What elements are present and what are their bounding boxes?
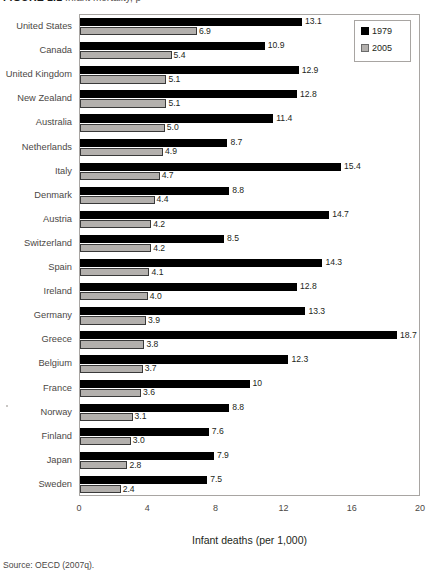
category-label: United States	[0, 14, 72, 38]
category-label: Greece	[0, 327, 72, 351]
bar-value-1979: 18.7	[400, 331, 417, 340]
bar-row: Australia11.45.0	[0, 110, 435, 134]
bar-value-1979: 8.8	[232, 403, 244, 412]
bar-value-1979: 7.9	[217, 451, 229, 460]
bar-group: 14.74.2	[80, 207, 419, 231]
bar-row: France103.6	[0, 376, 435, 400]
bar-2005	[80, 220, 151, 228]
bar-value-2005: 2.4	[123, 485, 135, 494]
bar-value-1979: 8.5	[227, 234, 239, 243]
bar-2005	[80, 51, 172, 59]
bar-value-2005: 4.1	[151, 268, 163, 277]
bar-2005	[80, 292, 148, 300]
x-axis-title: Infant deaths (per 1,000)	[79, 534, 420, 546]
bar-value-1979: 12.3	[291, 355, 308, 364]
bar-value-1979: 12.8	[300, 282, 317, 291]
bar-value-2005: 4.4	[157, 195, 169, 204]
gray-square-icon	[361, 44, 369, 52]
category-label: Ireland	[0, 279, 72, 303]
bar-value-1979: 12.8	[300, 90, 317, 99]
category-label: Denmark	[0, 183, 72, 207]
bar-group: 7.92.8	[80, 448, 419, 472]
category-label: Japan	[0, 448, 72, 472]
figure-title: FIGURE 1.1 Infant mortality, p	[3, 0, 303, 3]
bar-value-1979: 7.6	[212, 427, 224, 436]
bar-2005	[80, 437, 131, 445]
bar-row: Denmark8.84.4	[0, 183, 435, 207]
bar-value-2005: 3.1	[135, 412, 147, 421]
bar-rows: United States13.16.9Canada10.95.4United …	[0, 14, 435, 496]
bar-1979	[80, 355, 288, 363]
bar-group: 11.45.0	[80, 110, 419, 134]
bar-row: Finland7.63.0	[0, 424, 435, 448]
bar-group: 8.74.9	[80, 135, 419, 159]
bar-value-2005: 3.0	[133, 436, 145, 445]
category-label: United Kingdom	[0, 62, 72, 86]
bar-value-2005: 3.9	[148, 316, 160, 325]
bar-1979	[80, 18, 302, 26]
category-label: Norway	[0, 400, 72, 424]
legend-label-1979: 1979	[372, 27, 392, 36]
bar-group: 7.63.0	[80, 424, 419, 448]
bar-2005	[80, 461, 127, 469]
bar-value-2005: 4.2	[153, 220, 165, 229]
bar-value-1979: 10	[253, 379, 263, 388]
bar-group: 8.84.4	[80, 183, 419, 207]
bar-group: 13.33.9	[80, 303, 419, 327]
bar-row: Germany13.33.9	[0, 303, 435, 327]
bar-2005	[80, 172, 160, 180]
bar-value-2005: 4.0	[150, 292, 162, 301]
bar-group: 15.44.7	[80, 159, 419, 183]
bar-1979	[80, 452, 214, 460]
bar-1979	[80, 283, 297, 291]
bar-2005	[80, 99, 166, 107]
bar-group: 8.54.2	[80, 231, 419, 255]
x-tick-label: 8	[213, 503, 218, 513]
bar-value-2005: 5.4	[174, 51, 186, 60]
category-label: New Zealand	[0, 86, 72, 110]
category-label: Germany	[0, 303, 72, 327]
bar-1979	[80, 66, 299, 74]
bar-2005	[80, 485, 121, 493]
bar-row: Sweden7.52.4	[0, 472, 435, 496]
bar-2005	[80, 389, 141, 397]
bar-value-1979: 13.1	[305, 17, 322, 26]
bar-2005	[80, 124, 165, 132]
bar-2005	[80, 413, 133, 421]
figure-caption: Infant mortality, p	[65, 0, 141, 3]
bar-value-2005: 4.2	[153, 244, 165, 253]
bar-value-2005: 2.8	[129, 461, 141, 470]
bar-value-2005: 4.7	[162, 171, 174, 180]
bar-row: New Zealand12.85.1	[0, 86, 435, 110]
x-tick-label: 4	[145, 503, 150, 513]
bar-1979	[80, 90, 297, 98]
category-label: Belgium	[0, 351, 72, 375]
bar-group: 14.34.1	[80, 255, 419, 279]
bar-value-2005: 3.7	[145, 364, 157, 373]
bar-2005	[80, 316, 146, 324]
source-note: Source: OECD (2007q).	[3, 560, 94, 570]
bar-row: Switzerland8.54.2	[0, 231, 435, 255]
category-label: Australia	[0, 110, 72, 134]
bar-value-1979: 14.7	[332, 210, 349, 219]
bar-value-2005: 5.0	[167, 123, 179, 132]
category-label: France	[0, 376, 72, 400]
bar-2005	[80, 340, 144, 348]
x-axis: 048121620	[79, 497, 420, 515]
bar-row: Italy15.44.7	[0, 159, 435, 183]
bar-value-1979: 10.9	[268, 41, 285, 50]
bar-value-2005: 4.9	[165, 147, 177, 156]
bar-group: 12.33.7	[80, 351, 419, 375]
bar-row: Spain14.34.1	[0, 255, 435, 279]
category-label: Spain	[0, 255, 72, 279]
bar-2005	[80, 75, 166, 83]
bar-row: Norway8.83.1	[0, 400, 435, 424]
bar-group: 12.95.1	[80, 62, 419, 86]
bar-1979	[80, 42, 265, 50]
bar-1979	[80, 211, 329, 219]
bar-2005	[80, 244, 151, 252]
bar-1979	[80, 235, 224, 243]
x-tick-label: 12	[279, 503, 289, 513]
bar-row: United Kingdom12.95.1	[0, 62, 435, 86]
bar-2005	[80, 196, 155, 204]
